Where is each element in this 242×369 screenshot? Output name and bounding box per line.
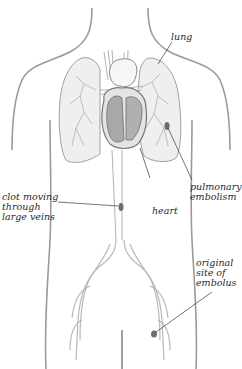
label-pulmonary-embolism: pulmonary embolism xyxy=(190,182,242,202)
label-heart: heart xyxy=(152,206,178,216)
right-lung xyxy=(59,58,100,163)
veins xyxy=(70,240,170,369)
label-lung: lung xyxy=(171,32,192,42)
label-clot-moving: clot moving through large veins xyxy=(2,192,58,222)
label-original-site: original site of embolus xyxy=(196,258,236,288)
clot-vein xyxy=(119,203,124,211)
